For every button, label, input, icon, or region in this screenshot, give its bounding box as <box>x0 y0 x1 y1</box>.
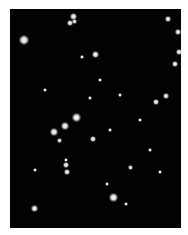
star <box>72 19 77 24</box>
star <box>105 182 110 187</box>
star <box>64 169 70 175</box>
star <box>92 51 99 58</box>
star <box>124 202 128 206</box>
star <box>57 138 62 143</box>
star <box>72 113 81 122</box>
star <box>80 55 84 59</box>
star <box>148 148 152 152</box>
star <box>158 170 162 174</box>
star <box>31 205 38 212</box>
star <box>98 78 102 82</box>
star <box>176 49 181 55</box>
star <box>153 99 159 105</box>
star-field-image <box>10 9 181 228</box>
star <box>128 165 133 170</box>
star <box>90 136 96 142</box>
star <box>118 93 122 97</box>
star <box>108 128 112 132</box>
star <box>172 61 178 67</box>
star <box>138 118 142 122</box>
star <box>50 128 58 136</box>
star <box>165 16 171 22</box>
star <box>109 193 118 202</box>
star <box>63 162 69 168</box>
star <box>88 96 92 100</box>
star <box>19 35 29 45</box>
star <box>175 29 181 35</box>
star <box>33 168 37 172</box>
star <box>163 93 169 99</box>
star <box>43 88 47 92</box>
star <box>61 122 69 130</box>
